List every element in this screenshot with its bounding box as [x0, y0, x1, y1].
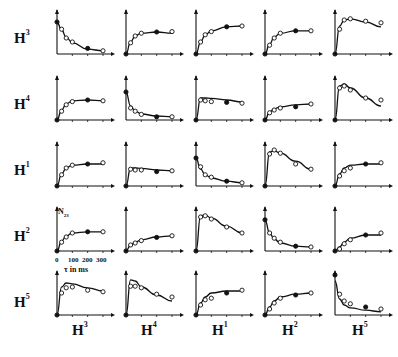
data-point: [263, 184, 267, 188]
data-point: [124, 313, 128, 317]
data-point: [199, 215, 203, 219]
data-point: [379, 161, 383, 165]
data-point: [133, 241, 137, 245]
data-point: [60, 173, 64, 177]
panel-h1-h1: [194, 141, 254, 188]
data-point: [60, 240, 64, 244]
data-point: [272, 148, 276, 152]
data-point: [203, 33, 207, 37]
data-point: [225, 100, 229, 104]
data-point: [225, 291, 229, 295]
data-point: [124, 52, 128, 56]
data-point: [70, 231, 74, 235]
data-point: [199, 303, 203, 307]
data-point: [348, 302, 352, 306]
data-point: [364, 96, 368, 100]
data-point: [64, 36, 68, 40]
data-point: [101, 290, 105, 294]
data-point: [263, 218, 267, 222]
data-point: [342, 169, 346, 173]
data-point: [240, 231, 244, 235]
data-point: [379, 231, 383, 235]
data-point: [155, 235, 159, 239]
data-point: [203, 173, 207, 177]
data-point: [268, 231, 272, 235]
data-point: [268, 152, 272, 156]
data-point: [60, 291, 64, 295]
data-point: [133, 34, 137, 38]
data-point: [170, 295, 174, 299]
data-point: [364, 162, 368, 166]
data-point: [342, 18, 346, 22]
data-point: [240, 181, 244, 185]
data-point: [203, 99, 207, 103]
data-point: [268, 43, 272, 47]
data-point: [55, 118, 59, 122]
data-point: [348, 17, 352, 21]
data-point: [55, 313, 59, 317]
data-point: [272, 108, 276, 112]
data-point: [194, 156, 198, 160]
data-point: [101, 230, 105, 234]
data-point: [124, 90, 128, 94]
data-point: [278, 296, 282, 300]
data-point: [342, 299, 346, 303]
data-point: [101, 49, 105, 53]
data-point: [86, 288, 90, 292]
data-point: [70, 163, 74, 167]
data-point: [240, 288, 244, 292]
data-point: [348, 166, 352, 170]
data-point: [129, 41, 133, 45]
data-point: [203, 214, 207, 218]
panel-h2-h5: [333, 206, 393, 253]
panel-h4-h3: [55, 75, 115, 122]
data-point: [268, 111, 272, 115]
data-point: [338, 27, 342, 31]
data-point: [64, 286, 68, 290]
data-point: [278, 151, 282, 155]
data-point: [199, 98, 203, 102]
data-point: [129, 243, 133, 247]
data-point: [64, 235, 68, 239]
panel-h4-h4: [124, 75, 184, 122]
panel-h5-h1: [194, 270, 254, 317]
data-point: [209, 30, 213, 34]
data-point: [155, 170, 159, 174]
data-point: [272, 301, 276, 305]
data-point: [129, 167, 133, 171]
data-point: [338, 86, 342, 90]
data-point: [209, 296, 213, 300]
data-point: [209, 217, 213, 221]
data-point: [272, 236, 276, 240]
data-point: [333, 52, 337, 56]
data-point: [124, 184, 128, 188]
data-point: [55, 20, 59, 24]
panel-h2-h3: [55, 206, 115, 253]
data-point: [309, 102, 313, 106]
data-point: [278, 106, 282, 110]
panel-h3-h2: [263, 9, 323, 56]
data-point: [278, 240, 282, 244]
data-point: [309, 167, 313, 171]
data-point: [70, 285, 74, 289]
panel-h3-h5: [333, 9, 393, 56]
panel-h1-h5: [333, 141, 393, 188]
panel-h2-h4: [124, 206, 184, 253]
data-point: [225, 25, 229, 29]
panel-h4-h2: [263, 75, 323, 122]
data-point: [86, 46, 90, 50]
data-point: [333, 118, 337, 122]
data-point: [194, 118, 198, 122]
data-point: [133, 109, 137, 113]
data-point: [203, 298, 207, 302]
data-point: [86, 162, 90, 166]
data-point: [209, 175, 213, 179]
data-point: [170, 115, 174, 119]
data-point: [364, 233, 368, 237]
data-point: [364, 19, 368, 23]
panel-h5-h2: [263, 270, 323, 317]
data-point: [133, 284, 137, 288]
data-point: [348, 238, 352, 242]
data-point: [309, 245, 313, 249]
data-point: [379, 21, 383, 25]
